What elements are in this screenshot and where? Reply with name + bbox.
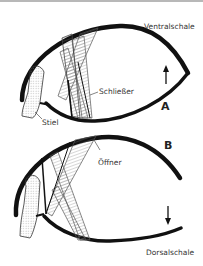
arrow-up-icon bbox=[163, 65, 169, 84]
opener-muscle-label: Öffner bbox=[98, 159, 122, 167]
ventral-shell-label: Ventralschale bbox=[144, 23, 195, 31]
ventral-shell-b bbox=[16, 137, 180, 215]
panel-b-label: B bbox=[164, 140, 172, 151]
dorsal-shell-label: Dorsalschale bbox=[146, 249, 194, 257]
arrow-down-icon bbox=[165, 206, 171, 225]
dorsal-shell-b bbox=[44, 216, 181, 241]
closer-muscle-label: Schließer bbox=[99, 88, 134, 96]
brachiopod-diagram bbox=[0, 0, 203, 266]
stalk-label: Stiel bbox=[42, 119, 58, 127]
stalk-a bbox=[22, 66, 44, 118]
panel-b bbox=[16, 136, 181, 241]
panel-a-label: A bbox=[161, 101, 170, 112]
